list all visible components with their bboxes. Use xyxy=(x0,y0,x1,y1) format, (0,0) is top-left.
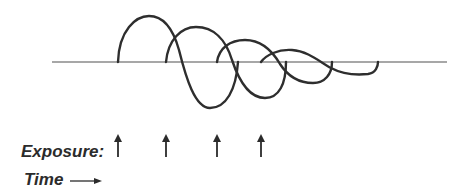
time-label: Time xyxy=(24,170,63,190)
up-arrow-icon xyxy=(212,134,222,158)
up-arrow-icon xyxy=(161,134,171,158)
exposure-label: Exposure: xyxy=(21,142,104,162)
up-arrow-icon xyxy=(256,134,266,158)
waveform-diagram xyxy=(0,0,471,130)
right-arrow-icon xyxy=(70,176,102,186)
up-arrow-icon xyxy=(113,134,123,158)
